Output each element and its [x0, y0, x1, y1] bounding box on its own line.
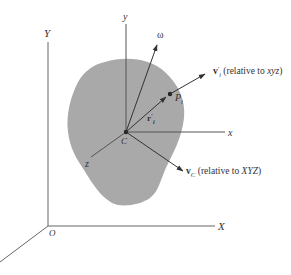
moving-x-label: x — [227, 127, 233, 138]
fixed-z-axis — [0, 226, 48, 262]
center-of-mass-label: C — [121, 136, 128, 146]
fixed-x-label: X — [217, 220, 226, 232]
v-prime-label: v′i (relative to xyz) — [213, 65, 282, 78]
moving-y-label: y — [122, 11, 128, 22]
origin-label-o: O — [49, 228, 56, 238]
rigid-body-kinematics-diagram: Y X O y x z C ω r′i Pi v′i (relative to … — [0, 0, 291, 275]
omega-label: ω — [157, 29, 164, 40]
fixed-y-label: Y — [44, 27, 52, 39]
moving-z-label: z — [84, 158, 89, 169]
v-c-label: vC (relative to XYZ) — [186, 166, 261, 179]
